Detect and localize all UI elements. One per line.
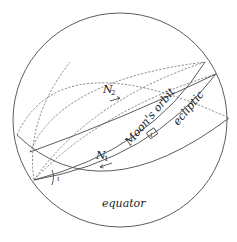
orbit-upper-back xyxy=(30,62,205,152)
node1-subscript: 1 xyxy=(104,155,108,163)
angle-label-equator-ecliptic: ι xyxy=(57,175,60,183)
angle-label-orbit-ecliptic: ι xyxy=(150,131,153,139)
angle-arc-equator xyxy=(52,170,54,185)
left-arc-dashed xyxy=(33,62,71,180)
sphere-outline xyxy=(13,13,227,227)
equator-label: equator xyxy=(102,197,146,210)
celestial-sphere-diagram: equator ecliptic Moon's orbit N 1 N 2 ι … xyxy=(0,0,237,242)
node2-subscript: 2 xyxy=(111,89,115,97)
equator-front xyxy=(17,118,229,171)
